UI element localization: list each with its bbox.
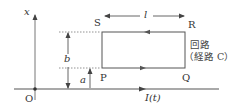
- origin-label: O: [25, 94, 33, 104]
- origin-dot: [33, 87, 37, 91]
- current-arrow-icon: [139, 87, 146, 92]
- loop-bottom-arrow-icon: [140, 66, 146, 70]
- corner-label-q: Q: [182, 73, 190, 83]
- corner-label-r: R: [188, 20, 196, 30]
- current-label: I(t): [145, 93, 161, 103]
- corner-label-s: S: [94, 18, 101, 28]
- corner-label-p: P: [100, 73, 107, 83]
- x-axis-label: x: [24, 7, 30, 17]
- loop-name-line2: （経路 C）: [184, 52, 234, 62]
- a-label: a: [80, 75, 86, 85]
- loop-rectangle: [102, 32, 185, 68]
- loop-name-line1: 回路: [190, 40, 210, 50]
- l-label: l: [144, 10, 147, 20]
- loop-top-arrow-icon: [144, 30, 150, 34]
- b-label: b: [64, 54, 70, 64]
